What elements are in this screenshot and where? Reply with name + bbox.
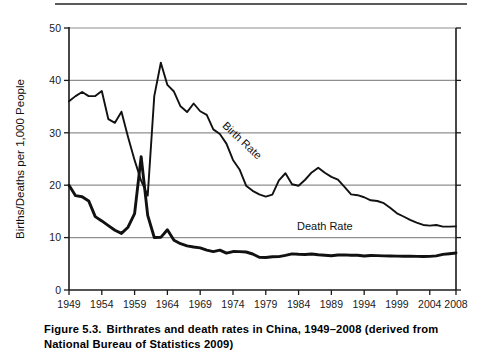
x-tick-label-2004: 2004 xyxy=(418,298,442,310)
grid-lines xyxy=(69,28,456,290)
x-tick-label-1949: 1949 xyxy=(57,298,81,310)
y-axis-tick-labels: 01020304050 xyxy=(49,22,61,296)
y-axis-ticks xyxy=(64,28,461,290)
x-tick-label-1984: 1984 xyxy=(287,298,311,310)
y-axis xyxy=(64,27,461,290)
x-tick-label-1999: 1999 xyxy=(385,298,409,310)
x-tick-label-1989: 1989 xyxy=(320,298,344,310)
x-tick-label-1959: 1959 xyxy=(123,298,147,310)
y-tick-label-0: 0 xyxy=(55,284,61,296)
annotation-death-rate: Death Rate xyxy=(297,220,353,232)
series-line-birth-rate xyxy=(69,63,456,227)
x-tick-label-1969: 1969 xyxy=(189,298,213,310)
y-tick-label-30: 30 xyxy=(49,127,61,139)
x-tick-label-1979: 1979 xyxy=(254,298,278,310)
x-tick-label-1974: 1974 xyxy=(221,298,245,310)
y-tick-label-50: 50 xyxy=(49,22,61,34)
figure-number: Figure 5.3. xyxy=(44,323,102,335)
x-tick-label-1994: 1994 xyxy=(352,298,376,310)
y-axis-title: Births/Deaths per 1,000 People xyxy=(14,79,26,239)
y-tick-label-20: 20 xyxy=(49,179,61,191)
x-axis-tick-labels: 1949195419591964196919741979198419891994… xyxy=(57,298,468,310)
y-tick-label-10: 10 xyxy=(49,231,61,243)
x-tick-label-1954: 1954 xyxy=(90,298,114,310)
y-tick-label-40: 40 xyxy=(49,74,61,86)
data-series-group xyxy=(69,63,456,258)
annotation-birth-rate: Birth Rate xyxy=(220,119,264,161)
series-line-death-rate xyxy=(69,157,456,258)
x-tick-label-2008: 2008 xyxy=(444,298,468,310)
figure-caption-text: Birthrates and death rates in China, 194… xyxy=(44,323,438,350)
figure-container: 01020304050 1949195419591964196919741979… xyxy=(0,0,484,358)
x-axis xyxy=(69,290,456,295)
figure-caption: Figure 5.3.Birthrates and death rates in… xyxy=(44,322,462,352)
birth-death-rate-line-chart: 01020304050 1949195419591964196919741979… xyxy=(0,0,484,318)
x-tick-label-1964: 1964 xyxy=(156,298,180,310)
